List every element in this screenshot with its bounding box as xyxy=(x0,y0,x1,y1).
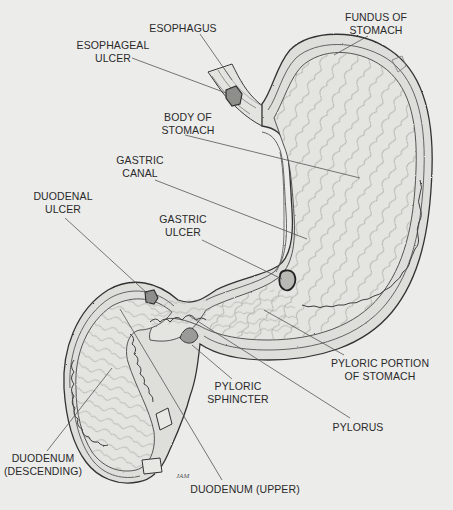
label-body-of-stomach: BODY OF STOMACH xyxy=(161,111,214,136)
label-pyloric-portion: PYLORIC PORTION OF STOMACH xyxy=(331,357,429,382)
label-duodenal-ulcer: DUODENAL ULCER xyxy=(33,190,92,215)
label-duodenum-upper: DUODENUM (UPPER) xyxy=(190,483,300,496)
stomach-anatomy-diagram: JAM ESOPHAGUS ESOPHAGEAL ULCER FUNDUS OF… xyxy=(0,0,453,510)
leader-line-duodenal-ulcer xyxy=(65,218,148,294)
artist-signature: JAM xyxy=(176,472,190,480)
stomach-illustration: JAM xyxy=(0,0,453,510)
label-gastric-canal: GASTRIC CANAL xyxy=(116,154,163,179)
label-pylorus: PYLORUS xyxy=(333,421,384,434)
label-gastric-ulcer: GASTRIC ULCER xyxy=(159,213,206,238)
leader-line-gastric-ulcer xyxy=(202,240,282,279)
label-pyloric-sphincter: PYLORIC SPHINCTER xyxy=(207,380,269,405)
label-fundus: FUNDUS OF STOMACH xyxy=(345,11,407,36)
gastric-ulcer-shape xyxy=(279,270,295,290)
label-esophageal-ulcer: ESOPHAGEAL ULCER xyxy=(77,39,150,64)
label-esophagus: ESOPHAGUS xyxy=(149,22,216,35)
label-duodenum-descending: DUODENUM (DESCENDING) xyxy=(4,452,82,477)
